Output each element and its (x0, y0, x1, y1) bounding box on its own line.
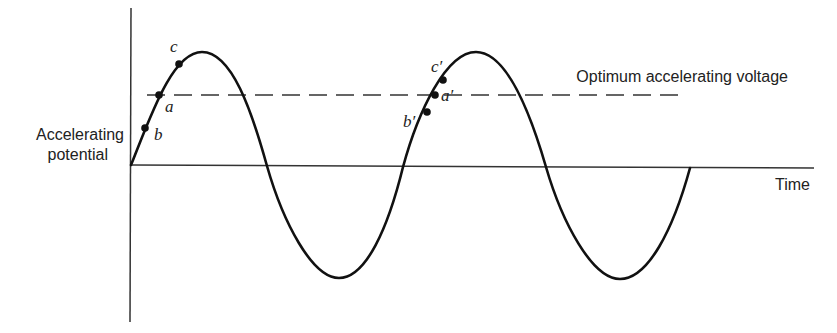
time-axis-label: Time (775, 176, 810, 193)
y-axis-label-line1: Accelerating (36, 126, 124, 143)
optimum-voltage-label: Optimum accelerating voltage (576, 68, 788, 85)
y-axis-label-line2: potential (48, 146, 109, 163)
label-a-prime: a′ (441, 86, 454, 105)
point-c-prime (439, 76, 447, 84)
rf-acceleration-diagram: c a b c′ a′ b′ Accelerating potential Op… (0, 0, 837, 333)
point-c (175, 60, 183, 68)
point-a-prime (431, 91, 439, 99)
time-axis (131, 165, 814, 168)
label-a: a (165, 97, 174, 116)
point-a (155, 91, 163, 99)
point-b (141, 124, 149, 132)
label-b-prime: b′ (403, 112, 416, 131)
label-b: b (154, 125, 163, 144)
label-c-prime: c′ (431, 57, 443, 76)
label-c: c (170, 37, 178, 56)
point-b-prime (423, 108, 431, 116)
